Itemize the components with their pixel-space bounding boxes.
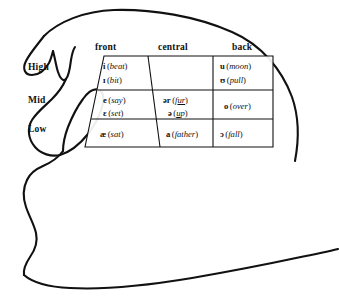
word-fur: fur — [175, 95, 185, 105]
cell-low-central-father: a(father) — [166, 130, 198, 139]
column-header-central: central — [158, 42, 188, 52]
paren-close: ) — [195, 129, 198, 139]
word-pull: pull — [230, 75, 243, 85]
cell-mid-back-over: o(over) — [224, 102, 251, 111]
word-set: set — [111, 108, 121, 118]
word-fall: fall — [228, 129, 239, 139]
column-header-back: back — [232, 42, 252, 52]
column-header-front: front — [95, 42, 116, 52]
row-label-low: Low — [28, 124, 47, 134]
paren-close: ) — [248, 101, 251, 111]
paren-close: ) — [121, 108, 124, 118]
word-fur-underlined: ur — [177, 95, 185, 105]
symbol-schwa-r: ər — [163, 95, 172, 105]
paren-close: ) — [119, 75, 122, 85]
cell-low-front-sat: æ(sat) — [100, 130, 124, 139]
word-say: say — [111, 95, 122, 105]
vowel-chart-diagram: front central back High Mid Low i(beat) … — [0, 0, 339, 301]
paren-close: ) — [123, 95, 126, 105]
word-father: father — [175, 129, 196, 139]
word-bit: bit — [110, 75, 119, 85]
paren-close: ) — [248, 61, 251, 71]
row-label-mid: Mid — [28, 95, 46, 105]
paren-close: ) — [121, 129, 124, 139]
symbol-ash: æ — [100, 129, 108, 139]
paren-close: ) — [185, 95, 188, 105]
word-sat: sat — [111, 129, 121, 139]
word-beat: beat — [110, 61, 125, 71]
paren-close: ) — [243, 75, 246, 85]
paren-close: ) — [125, 61, 128, 71]
cell-mid-central-up: ə(up) — [168, 109, 188, 118]
word-up: up — [176, 108, 185, 118]
cell-mid-central-fur: ər(fur) — [163, 96, 188, 105]
cell-high-back-pull: ʊ(pull) — [220, 76, 246, 85]
symbol-upsilon: ʊ — [220, 75, 227, 85]
cell-high-back-moon: u(moon) — [220, 62, 251, 71]
cell-mid-front-set: ɛ(set) — [103, 109, 123, 118]
paren-close: ) — [240, 129, 243, 139]
row-label-high: High — [28, 62, 49, 72]
word-moon: moon — [229, 61, 248, 71]
paren-close: ) — [185, 108, 188, 118]
cell-high-front-beat: i(beat) — [103, 62, 127, 71]
cell-mid-front-say: e(say) — [103, 96, 126, 105]
word-over: over — [233, 101, 248, 111]
cell-high-front-bit: ɪ(bit) — [103, 76, 122, 85]
cell-low-back-fall: ɔ(fall) — [220, 130, 243, 139]
